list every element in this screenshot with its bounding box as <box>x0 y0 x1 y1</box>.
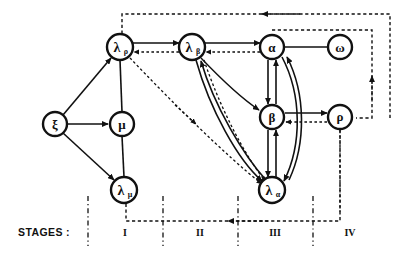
node-beta-label: β <box>269 110 276 125</box>
diagram-canvas: ξ λ ρ μ λ μ λ β <box>0 0 405 256</box>
edges-top-chain <box>133 43 328 52</box>
node-lambda-beta[interactable]: λ β <box>179 34 205 60</box>
feedback-bus-omega-right <box>272 30 372 118</box>
node-lambda-mu-label: λ <box>118 183 125 198</box>
edge-lambda-beta-to-lambda-alpha-dashed <box>204 60 266 182</box>
node-lambda-beta-label: λ <box>186 40 193 55</box>
node-mu-label: μ <box>118 117 126 132</box>
edge-xi-to-lambda-rho <box>63 58 111 115</box>
node-alpha-label: α <box>268 40 276 55</box>
node-mu[interactable]: μ <box>110 112 134 136</box>
node-beta[interactable]: β <box>260 105 284 129</box>
stage-label-4: IV <box>344 227 356 238</box>
node-lambda-mu[interactable]: λ μ <box>111 177 137 203</box>
node-lambda-alpha-subscript: α <box>276 190 281 199</box>
feedback-omega-path <box>272 30 372 118</box>
node-lambda-alpha[interactable]: λ α <box>259 177 285 203</box>
node-lambda-mu-subscript: μ <box>128 190 133 199</box>
node-rho[interactable]: ρ <box>328 105 352 129</box>
node-lambda-rho[interactable]: λ ρ <box>107 34 133 60</box>
node-lambda-rho-subscript: ρ <box>124 47 128 56</box>
stages-title: STAGES : <box>18 226 70 238</box>
node-lambda-beta-subscript: β <box>196 47 200 56</box>
edge-lambda-rho-diagonal-arrow-seg <box>175 105 196 124</box>
stage-label-3: III <box>269 227 281 238</box>
node-alpha[interactable]: α <box>260 35 284 59</box>
node-rho-label: ρ <box>337 109 344 124</box>
node-lambda-rho-label: λ <box>114 40 121 55</box>
edge-mu-to-lambda-mu <box>122 136 124 177</box>
stages-legend: STAGES : I II III IV <box>18 226 356 238</box>
stage-label-1: I <box>123 227 127 238</box>
flow-diagram: ξ λ ρ μ λ μ λ β <box>0 0 405 256</box>
node-xi[interactable]: ξ <box>43 112 67 136</box>
nodes: ξ λ ρ μ λ μ λ β <box>43 34 352 203</box>
stage-label-2: II <box>196 227 204 238</box>
node-omega[interactable]: ω <box>328 35 352 59</box>
node-xi-label: ξ <box>52 117 58 132</box>
edge-lambda-rho-to-mu <box>120 60 122 112</box>
edge-xi-to-lambda-mu <box>63 133 114 180</box>
node-lambda-alpha-label: λ <box>266 183 273 198</box>
edges-diagonal-bundle <box>130 58 340 212</box>
node-omega-label: ω <box>335 40 345 55</box>
edge-lambda-rho-to-lambda-alpha-dashed <box>130 58 262 184</box>
